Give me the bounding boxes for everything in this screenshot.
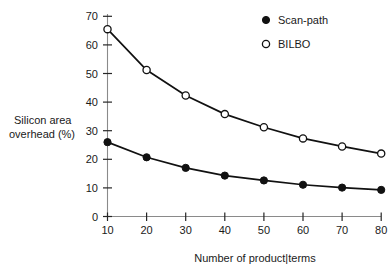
data-point-scan-path (339, 184, 346, 191)
data-point-scan-path (143, 154, 150, 161)
chart-legend: Scan-path BILBO (262, 14, 328, 50)
line-chart: 0 10 20 30 40 50 60 70 10 20 30 40 50 (0, 0, 389, 272)
y-axis-title-line1: Silicon area (14, 114, 72, 126)
data-point-bilbo (339, 143, 346, 150)
y-tick-label: 50 (86, 68, 98, 80)
y-tick-label: 60 (86, 39, 98, 51)
y-tick-label: 70 (86, 10, 98, 22)
chart-figure: 0 10 20 30 40 50 60 70 10 20 30 40 50 (0, 0, 389, 272)
data-point-scan-path (221, 172, 228, 179)
y-tick-label: 10 (86, 182, 98, 194)
series-markers-bilbo (104, 26, 385, 158)
y-axis-title-line2: overhead (%) (9, 128, 75, 140)
data-point-scan-path (378, 186, 385, 193)
legend-label-bilbo: BILBO (278, 38, 311, 50)
x-tick-label: 70 (336, 224, 348, 236)
x-tick-label: 20 (140, 224, 152, 236)
x-tick-label: 40 (219, 224, 231, 236)
x-axis-tick-labels: 10 20 30 40 50 60 70 80 (101, 224, 387, 236)
x-tick-label: 50 (258, 224, 270, 236)
data-point-bilbo (182, 92, 189, 99)
data-point-bilbo (260, 124, 267, 131)
data-point-bilbo (221, 111, 228, 118)
y-tick-label: 40 (86, 96, 98, 108)
data-point-scan-path (260, 177, 267, 184)
data-point-bilbo (143, 66, 150, 73)
data-point-scan-path (104, 139, 111, 146)
y-axis-tick-labels: 0 10 20 30 40 50 60 70 (86, 10, 98, 222)
y-tick-label: 20 (86, 153, 98, 165)
data-point-scan-path (182, 164, 189, 171)
data-point-scan-path (299, 181, 306, 188)
x-axis-title: Number of product|terms (194, 252, 316, 264)
x-tick-label: 30 (180, 224, 192, 236)
y-tick-label: 0 (92, 211, 98, 223)
legend-marker-open-circle-icon (262, 40, 269, 47)
series-line-bilbo (108, 29, 382, 153)
legend-marker-filled-circle-icon (262, 16, 269, 23)
data-point-bilbo (299, 135, 306, 142)
legend-label-scan-path: Scan-path (278, 14, 328, 26)
data-point-bilbo (378, 150, 385, 157)
x-tick-label: 80 (375, 224, 387, 236)
x-tick-label: 60 (297, 224, 309, 236)
data-point-bilbo (104, 26, 111, 33)
x-tick-label: 10 (101, 224, 113, 236)
y-tick-label: 30 (86, 125, 98, 137)
